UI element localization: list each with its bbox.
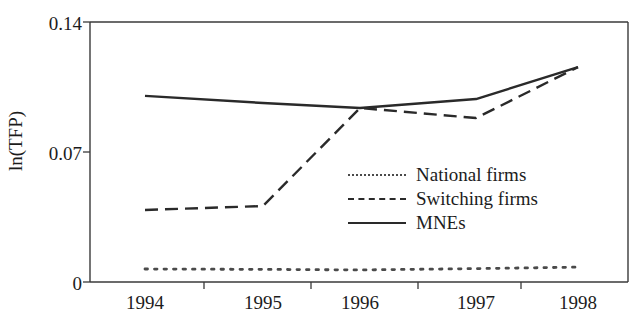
legend-swatch-solid-icon: [348, 217, 406, 229]
series-line-national-firms: [145, 267, 578, 270]
legend-label: National firms: [406, 164, 526, 186]
legend-swatch-dashed-icon: [348, 193, 406, 205]
legend-label: MNEs: [406, 212, 466, 234]
legend-item-mnes: MNEs: [348, 211, 598, 235]
legend-item-switching-firms: Switching firms: [348, 187, 598, 211]
legend-item-national-firms: National firms: [348, 163, 598, 187]
legend-label: Switching firms: [406, 188, 538, 210]
y-ticks: [83, 22, 90, 282]
chart-figure: ln(TFP) 0.14 0.07 0 1994 1995 1996 1997 …: [0, 0, 638, 334]
series-line-mnes: [145, 67, 578, 108]
chart-legend: National firms Switching firms MNEs: [348, 163, 598, 235]
legend-swatch-dotted-icon: [348, 169, 406, 181]
x-ticks: [204, 282, 521, 289]
axis-frame: [90, 22, 628, 282]
